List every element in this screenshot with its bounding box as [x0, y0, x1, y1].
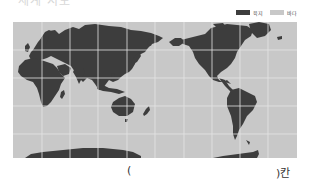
- sea-swatch: [270, 10, 284, 15]
- land-swatch: [236, 10, 250, 15]
- legend-item-land: 육지: [236, 9, 263, 16]
- answer-open-paren: (: [127, 164, 131, 177]
- legend-label-land: 육지: [253, 9, 263, 16]
- legend-item-sea: 바다: [270, 9, 297, 16]
- world-map-svg: [13, 22, 297, 158]
- page-title: 세계 지도: [18, 0, 71, 8]
- map-legend: 육지 바다: [229, 9, 297, 16]
- answer-close-paren: )칸: [276, 164, 290, 180]
- world-map: [13, 22, 297, 158]
- legend-label-sea: 바다: [287, 9, 297, 16]
